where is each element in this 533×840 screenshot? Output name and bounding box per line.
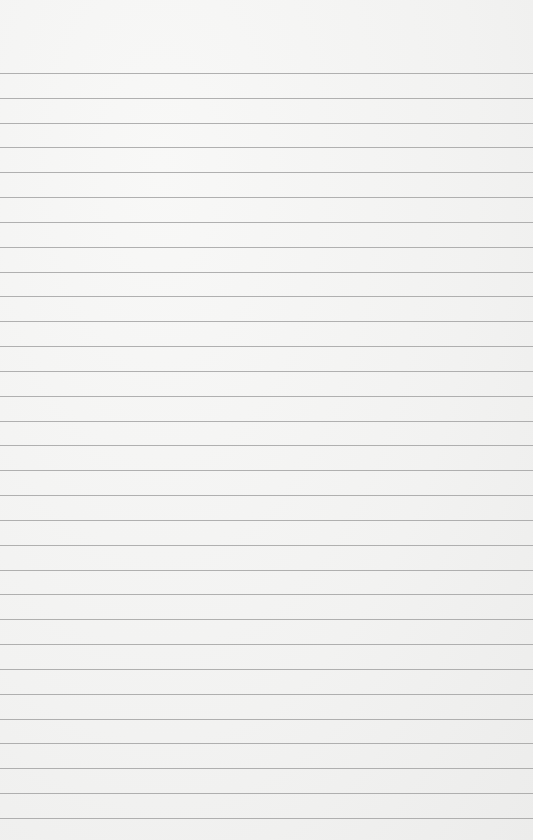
ruled-line (0, 296, 533, 297)
ruled-line (0, 222, 533, 223)
lined-paper-sheet (0, 0, 533, 840)
ruled-line (0, 570, 533, 571)
ruled-line (0, 719, 533, 720)
ruled-line (0, 545, 533, 546)
ruled-line (0, 197, 533, 198)
ruled-line (0, 247, 533, 248)
ruled-line (0, 520, 533, 521)
ruled-line (0, 371, 533, 372)
ruled-line (0, 768, 533, 769)
ruled-line (0, 818, 533, 819)
ruled-line (0, 594, 533, 595)
ruled-line (0, 694, 533, 695)
ruled-line (0, 123, 533, 124)
ruled-line (0, 73, 533, 74)
ruled-line (0, 421, 533, 422)
ruled-line (0, 793, 533, 794)
ruled-line (0, 321, 533, 322)
ruled-line (0, 495, 533, 496)
ruled-line (0, 172, 533, 173)
ruled-line (0, 98, 533, 99)
ruled-line (0, 669, 533, 670)
ruled-line (0, 396, 533, 397)
ruled-line (0, 147, 533, 148)
ruled-line (0, 470, 533, 471)
ruled-line (0, 644, 533, 645)
ruled-line (0, 619, 533, 620)
ruled-line (0, 346, 533, 347)
ruled-line (0, 743, 533, 744)
ruled-line (0, 272, 533, 273)
ruled-line (0, 445, 533, 446)
